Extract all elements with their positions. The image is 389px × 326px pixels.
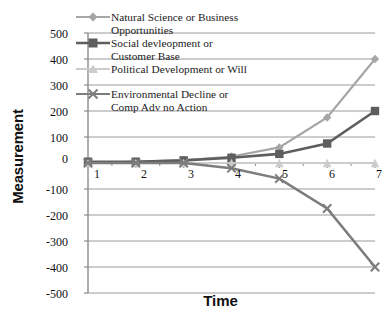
legend-label: Natural Science or Business Opportunitie… <box>111 11 238 36</box>
series-square <box>84 107 379 166</box>
legend-label: Political Development or Will <box>111 63 247 76</box>
data-point-square <box>371 107 379 115</box>
line-chart: Measurement 500 400 300 200 100 0 -100 -… <box>0 0 389 326</box>
x-tick-label: 6 <box>317 167 347 182</box>
diamond-marker-icon <box>76 11 110 23</box>
legend-label-line2: Comp Adv no Action <box>111 101 228 114</box>
triangle-marker-icon <box>76 63 110 75</box>
x-tick-label: 4 <box>223 167 253 182</box>
x-axis-title: Time <box>0 292 389 309</box>
legend-label: Social devleopment or Customer Base <box>111 37 213 62</box>
data-point-square <box>323 139 331 147</box>
legend-label-line2: Opportunities <box>111 24 238 37</box>
legend-label-line1: Political Development or Will <box>111 63 247 75</box>
x-tick-label: 3 <box>176 167 206 182</box>
square-marker-icon <box>76 37 110 49</box>
data-point-square <box>275 150 283 158</box>
legend-label-line2: Customer Base <box>111 50 213 63</box>
legend-item-political-development[interactable]: Political Development or Will <box>76 63 247 76</box>
legend-item-social-development[interactable]: Social devleopment or Customer Base <box>76 37 213 62</box>
x-tick-label: 2 <box>129 167 159 182</box>
legend-label-line1: Natural Science or Business <box>111 11 238 23</box>
legend-label-line1: Social devleopment or <box>111 37 213 49</box>
x-tick-label: 1 <box>82 167 112 182</box>
legend-item-natural-science[interactable]: Natural Science or Business Opportunitie… <box>76 11 238 36</box>
x-tick-label: 7 <box>364 167 389 182</box>
x-marker-icon <box>76 88 110 100</box>
legend-label-line1: Environmental Decline or <box>111 88 228 100</box>
legend-item-environmental-decline[interactable]: Environmental Decline or Comp Adv no Act… <box>76 88 228 113</box>
legend-label: Environmental Decline or Comp Adv no Act… <box>111 88 228 113</box>
x-tick-label: 5 <box>270 167 300 182</box>
